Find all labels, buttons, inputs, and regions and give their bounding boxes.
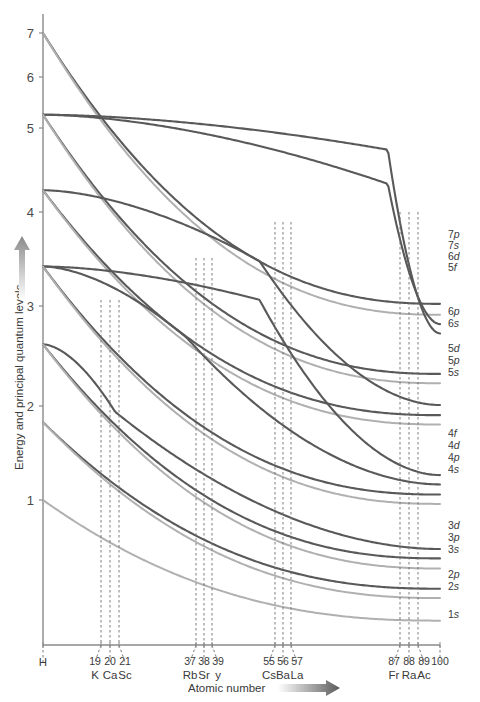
element-symbol-Sc: Sc — [118, 669, 132, 681]
atomic-number-88: 88 — [403, 655, 415, 667]
orbital-label-6p: 6p — [448, 305, 460, 317]
atomic-number-56: 56 — [277, 655, 289, 667]
y-tick-label: 4 — [27, 205, 34, 220]
atomic-number-19: 19 — [89, 655, 101, 667]
y-tick-label: 6 — [27, 70, 34, 85]
element-symbol-Ba: Ba — [276, 669, 291, 681]
y-tick-label: 7 — [27, 26, 34, 41]
atomic-number-55: 55 — [263, 655, 275, 667]
element-symbol-La: La — [291, 669, 304, 681]
orbital-label-5p: 5p — [448, 354, 460, 366]
element-symbol-Ac: Ac — [417, 669, 431, 681]
element-symbol-Cs: Cs — [262, 669, 276, 681]
orbital-label-4s: 4s — [448, 463, 460, 475]
orbital-label-5f: 5f — [448, 261, 458, 273]
orbital-label-1s: 1s — [448, 608, 460, 620]
x-axis-title: Atomic number — [188, 682, 266, 694]
y-tick-label: 1 — [27, 493, 34, 508]
atomic-number-57: 57 — [291, 655, 303, 667]
orbital-label-3p: 3p — [448, 531, 460, 543]
element-symbol-Fr: Fr — [389, 669, 400, 681]
element-symbol-Ca: Ca — [103, 669, 118, 681]
y-tick-label: 5 — [27, 121, 34, 136]
element-symbol-Rb: Rb — [183, 669, 198, 681]
atomic-number-39: 39 — [212, 655, 224, 667]
orbital-label-6s: 6s — [448, 317, 460, 329]
orbital-label-5d: 5d — [448, 342, 461, 354]
x-direction-arrow — [278, 680, 340, 696]
element-symbol-Sr: Sr — [198, 669, 210, 681]
y-tick-label: 2 — [27, 399, 34, 414]
atomic-number-37: 37 — [184, 655, 196, 667]
atomic-number-89: 89 — [418, 655, 430, 667]
y-axis-title: Energy and principal quantum levels — [13, 284, 25, 470]
orbital-label-2p: 2p — [448, 568, 460, 580]
orbital-label-4d: 4d — [448, 439, 461, 451]
atomic-number-100: 100 — [431, 655, 449, 667]
orbital-label-3d: 3d — [448, 519, 461, 531]
chart-root: 76543217p7s6d5f6p6s5d5p5s4f4d4p4s3d3p3s2… — [0, 0, 480, 702]
atomic-number-20: 20 — [104, 655, 116, 667]
orbital-label-4p: 4p — [448, 451, 460, 463]
atomic-number-38: 38 — [198, 655, 210, 667]
orbital-label-5s: 5s — [448, 366, 460, 378]
element-symbol-y: y — [215, 669, 221, 681]
orbital-label-4f: 4f — [448, 427, 458, 439]
atomic-number-87: 87 — [388, 655, 400, 667]
atomic-number-21: 21 — [119, 655, 131, 667]
chart-text-layer: 76543217p7s6d5f6p6s5d5p5s4f4d4p4s3d3p3s2… — [0, 0, 480, 702]
element-symbol-Ra: Ra — [402, 669, 417, 681]
orbital-label-3s: 3s — [448, 543, 460, 555]
element-symbol-H: H — [39, 656, 47, 668]
orbital-label-2s: 2s — [448, 580, 460, 592]
element-symbol-K: K — [91, 669, 99, 681]
y-tick-label: 3 — [27, 299, 34, 314]
